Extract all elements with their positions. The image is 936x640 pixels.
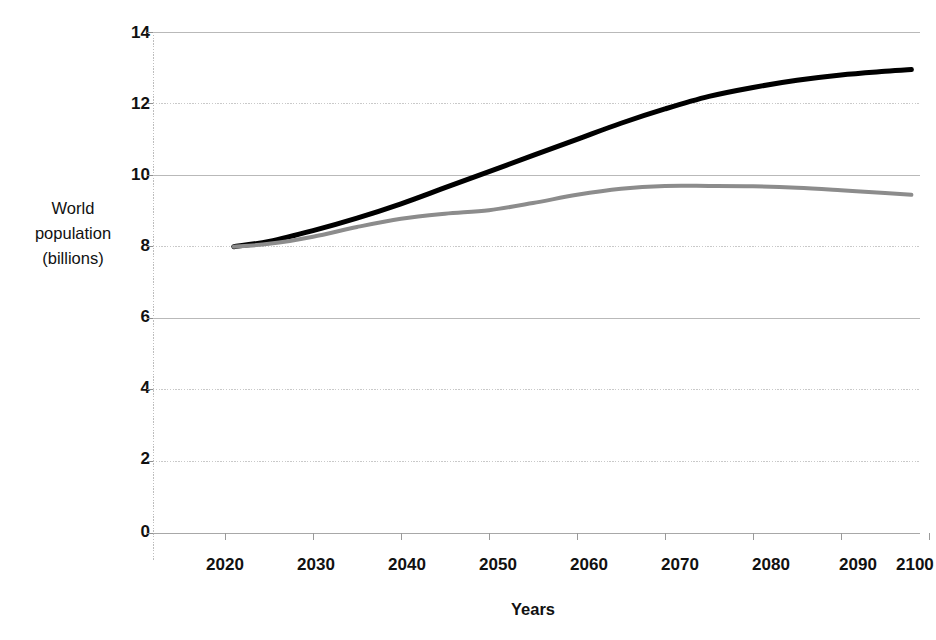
chart-container: World population (billions) 14 12 10 8 6… xyxy=(0,0,936,640)
data-series-group xyxy=(234,70,912,247)
series-line-0 xyxy=(234,70,912,247)
series-line-1 xyxy=(234,186,912,247)
axis-lines xyxy=(153,32,920,560)
axis-tick-marks xyxy=(147,32,929,540)
gridlines xyxy=(153,32,920,533)
plot-area xyxy=(0,0,936,640)
